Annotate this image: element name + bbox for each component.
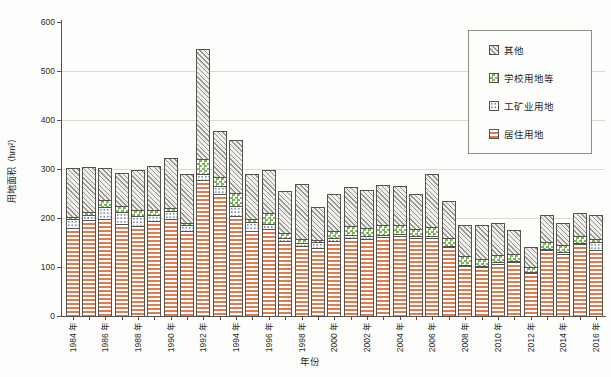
x-axis-tick-label: 1984 年 (68, 322, 79, 362)
segment-residential-2016 (589, 250, 603, 316)
y-axis-tick-label: 100 (21, 262, 55, 272)
y-axis-tick (57, 267, 61, 268)
x-axis-tick (220, 317, 221, 320)
legend-swatch-residential (489, 129, 499, 139)
legend-item-industry: 工矿业用地 (489, 99, 585, 113)
segment-residential-1987 (115, 224, 129, 316)
segment-other-2001 (344, 187, 358, 227)
x-axis-tick (318, 317, 319, 320)
x-axis-tick-label: 2016 年 (591, 322, 602, 362)
segment-school-2015 (573, 236, 587, 243)
x-axis-tick-label: 2008 年 (460, 322, 471, 362)
bar-1989 (147, 166, 161, 316)
segment-other-2015 (573, 213, 587, 236)
y-axis-tick-label: 400 (21, 115, 55, 125)
bar-1998 (295, 184, 309, 316)
segment-residential-1991 (180, 231, 194, 316)
x-axis-tick (383, 317, 384, 320)
legend-swatch-school (489, 73, 499, 83)
segment-other-1992 (196, 49, 210, 159)
x-axis-tick (514, 317, 515, 320)
segment-other-2005 (409, 194, 423, 229)
segment-residential-2007 (442, 247, 456, 316)
segment-residential-1997 (278, 241, 292, 316)
segment-residential-2004 (393, 236, 407, 316)
x-axis-tick (302, 317, 303, 320)
segment-residential-2002 (360, 239, 374, 316)
segment-other-2002 (360, 190, 374, 228)
legend-item-other: 其他 (489, 43, 585, 57)
segment-other-1991 (180, 174, 194, 223)
legend-label-industry: 工矿业用地 (504, 99, 554, 113)
legend-swatch-other (489, 45, 499, 55)
segment-residential-1985 (82, 220, 96, 316)
x-axis-tick (138, 317, 139, 320)
bar-2007 (442, 201, 456, 316)
x-axis-tick-label: 1988 年 (133, 322, 144, 362)
segment-other-1998 (295, 184, 309, 239)
bar-1993 (213, 131, 227, 316)
bar-2004 (393, 186, 407, 316)
x-axis-tick-label: 2006 年 (427, 322, 438, 362)
bar-2015 (573, 213, 587, 316)
x-axis-tick (89, 317, 90, 320)
x-axis-tick (580, 317, 581, 320)
segment-school-2007 (442, 238, 456, 246)
legend-label-other: 其他 (504, 43, 524, 57)
segment-other-1996 (262, 170, 276, 213)
x-axis-tick (465, 317, 466, 320)
bar-2009 (475, 225, 489, 316)
bar-2006 (425, 174, 439, 316)
segment-residential-1988 (131, 226, 145, 316)
bar-2014 (556, 223, 570, 316)
segment-other-2008 (458, 225, 472, 256)
x-axis-tick (252, 317, 253, 320)
segment-residential-2014 (556, 254, 570, 316)
x-axis-tick (367, 317, 368, 320)
segment-residential-1995 (245, 231, 259, 316)
x-axis-tick (154, 317, 155, 320)
segment-school-2011 (507, 254, 521, 261)
bar-1994 (229, 140, 243, 316)
segment-industry-1999 (311, 242, 325, 249)
x-axis-tick-label: 2004 年 (395, 322, 406, 362)
bar-1986 (98, 168, 112, 316)
x-axis-tick (187, 317, 188, 320)
y-axis-tick-label: 0 (21, 311, 55, 321)
bar-1997 (278, 191, 292, 316)
segment-industry-1987 (115, 212, 129, 224)
segment-school-2013 (540, 242, 554, 249)
y-axis-tick (57, 169, 61, 170)
segment-industry-2016 (589, 242, 603, 250)
bar-1987 (115, 173, 129, 316)
bar-2002 (360, 190, 374, 316)
segment-other-1987 (115, 173, 129, 206)
y-axis-tick (57, 316, 61, 317)
segment-other-1989 (147, 166, 161, 210)
x-axis-tick (531, 317, 532, 320)
segment-other-1985 (82, 167, 96, 212)
x-axis-tick-label: 2012 年 (526, 322, 537, 362)
x-axis-tick (351, 317, 352, 320)
segment-other-2010 (491, 223, 505, 255)
segment-residential-1992 (196, 180, 210, 316)
segment-residential-2001 (344, 238, 358, 316)
bar-2016 (589, 215, 603, 316)
bar-1988 (131, 170, 145, 316)
bar-1985 (82, 167, 96, 316)
segment-other-1999 (311, 207, 325, 240)
y-axis-tick (57, 218, 61, 219)
segment-residential-2010 (491, 264, 505, 316)
x-axis-tick (105, 317, 106, 320)
segment-industry-1990 (164, 211, 178, 219)
x-axis-tick (547, 317, 548, 320)
segment-residential-1986 (98, 219, 112, 316)
segment-residential-1998 (295, 246, 309, 316)
segment-residential-2013 (540, 250, 554, 316)
bar-1984 (66, 168, 80, 316)
x-axis-tick (596, 317, 597, 320)
bar-1999 (311, 207, 325, 316)
y-axis-tick (57, 22, 61, 23)
segment-industry-1986 (98, 207, 112, 219)
segment-residential-2008 (458, 266, 472, 317)
